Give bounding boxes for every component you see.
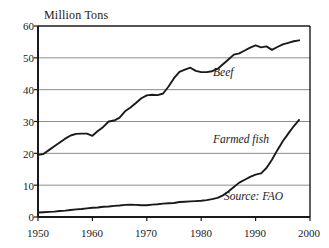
axis-ticks bbox=[34, 26, 310, 221]
plot-area bbox=[0, 0, 329, 248]
chart-container: Million Tons 60 50 40 30 20 10 0 1950 19… bbox=[0, 0, 329, 248]
